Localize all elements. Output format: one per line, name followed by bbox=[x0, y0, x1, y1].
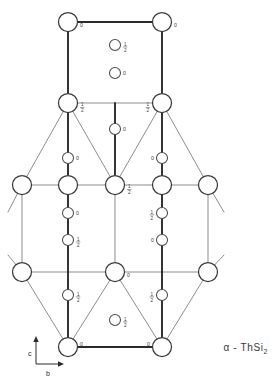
thorium-atom-circles: 00121212000 bbox=[13, 13, 218, 357]
atom-height-label: 0 bbox=[76, 210, 79, 216]
atom-height-fraction: 12 bbox=[76, 292, 80, 303]
fraction-numerator: 1 bbox=[77, 237, 80, 242]
thorium-atom: 0 bbox=[106, 263, 131, 282]
thorium-atom: 12 bbox=[59, 94, 85, 114]
light-bond-lines bbox=[8, 103, 224, 347]
thorium-atom bbox=[199, 263, 218, 282]
formula-subscript: 2 bbox=[264, 348, 269, 355]
fraction-numerator: 1 bbox=[81, 102, 84, 107]
atom-height-fraction: 12 bbox=[123, 317, 127, 328]
fraction-denominator: 2 bbox=[128, 190, 131, 195]
silicon-atom: 12 bbox=[63, 235, 81, 248]
silicon-atom: 0 bbox=[151, 153, 167, 164]
fraction-numerator: 1 bbox=[151, 292, 154, 297]
fraction-denominator: 2 bbox=[147, 108, 150, 113]
thorium-atom: 12 bbox=[106, 176, 132, 196]
bond-line-light bbox=[162, 103, 208, 185]
b-axis-label: b bbox=[46, 370, 50, 377]
bond-line-light bbox=[68, 272, 115, 347]
silicon-atom: 0 bbox=[110, 124, 127, 135]
thorium-atom bbox=[153, 176, 172, 195]
thorium-atom-circle bbox=[106, 176, 125, 195]
thorium-atom-circle bbox=[106, 263, 125, 282]
silicon-atom: 0 bbox=[63, 208, 80, 219]
bond-line-light bbox=[115, 103, 162, 185]
atom-height-label: 0 bbox=[80, 22, 83, 28]
fraction-numerator: 1 bbox=[147, 102, 150, 107]
thorium-atom: 0 bbox=[59, 13, 84, 32]
silicon-atom-circle bbox=[157, 235, 168, 246]
silicon-atom-circle bbox=[110, 124, 121, 135]
axis-indicator: c b bbox=[28, 336, 64, 377]
silicon-atom-circle bbox=[110, 40, 121, 51]
thorium-atom-circle bbox=[13, 176, 32, 195]
bond-line-light bbox=[22, 272, 68, 347]
c-axis-arrowhead bbox=[33, 336, 38, 342]
b-axis-arrowhead bbox=[58, 361, 64, 366]
fraction-denominator: 2 bbox=[81, 108, 84, 113]
fraction-numerator: 1 bbox=[151, 210, 154, 215]
fraction-denominator: 2 bbox=[77, 298, 80, 303]
atom-height-fraction: 12 bbox=[80, 102, 84, 113]
crystal-structure-diagram: 00121212000 120000012120121212 c b bbox=[0, 0, 280, 383]
c-axis-label: c bbox=[28, 350, 32, 357]
fraction-numerator: 1 bbox=[124, 317, 127, 322]
fraction-numerator: 1 bbox=[77, 292, 80, 297]
atom-height-fraction: 12 bbox=[150, 292, 154, 303]
atom-height-label: 0 bbox=[123, 126, 126, 132]
fraction-denominator: 2 bbox=[124, 48, 127, 53]
silicon-atom-circle bbox=[110, 315, 121, 326]
crystal-structure-figure: 00121212000 120000012120121212 c b α - T… bbox=[0, 0, 280, 383]
atom-height-fraction: 12 bbox=[76, 237, 80, 248]
silicon-atom-circle bbox=[63, 208, 74, 219]
atom-height-label: 0 bbox=[76, 155, 79, 161]
atom-height-fraction: 12 bbox=[146, 102, 150, 113]
thorium-atom-circle bbox=[59, 13, 78, 32]
atom-height-fraction: 12 bbox=[127, 184, 131, 195]
fraction-denominator: 2 bbox=[124, 323, 127, 328]
silicon-atom: 0 bbox=[63, 153, 80, 164]
thorium-atom-circle bbox=[153, 13, 172, 32]
bond-line-light bbox=[162, 272, 208, 347]
formula-prefix: α - ThSi bbox=[223, 342, 263, 353]
silicon-atom: 0 bbox=[110, 68, 127, 79]
fraction-numerator: 1 bbox=[124, 42, 127, 47]
atom-height-label: 0 bbox=[174, 22, 177, 28]
thorium-atom-circle bbox=[199, 263, 218, 282]
atom-height-fraction: 12 bbox=[123, 42, 127, 53]
atom-height-label: 0 bbox=[127, 272, 130, 278]
atom-height-label: 0 bbox=[151, 237, 154, 243]
atom-height-label: 0 bbox=[151, 155, 154, 161]
fraction-numerator: 1 bbox=[128, 184, 131, 189]
atom-height-fraction: 12 bbox=[150, 210, 154, 221]
thorium-atom-circle bbox=[59, 176, 78, 195]
fraction-denominator: 2 bbox=[151, 298, 154, 303]
thorium-atom-circle bbox=[13, 263, 32, 282]
fraction-denominator: 2 bbox=[151, 216, 154, 221]
fraction-denominator: 2 bbox=[77, 243, 80, 248]
thorium-atom-circle bbox=[153, 176, 172, 195]
thorium-atom bbox=[13, 176, 32, 195]
thorium-atom bbox=[59, 176, 78, 195]
bond-line-light bbox=[68, 103, 115, 185]
silicon-atom: 12 bbox=[63, 290, 81, 303]
silicon-atom: 12 bbox=[150, 290, 168, 303]
thorium-atom-circle bbox=[199, 176, 218, 195]
silicon-atom: 12 bbox=[110, 40, 128, 53]
thorium-atom-circle bbox=[59, 338, 78, 357]
atom-height-label: 0 bbox=[123, 70, 126, 76]
thorium-atom: 12 bbox=[146, 94, 172, 114]
silicon-atom-circle bbox=[63, 153, 74, 164]
silicon-atom-circle bbox=[63, 235, 74, 246]
silicon-atom-circle bbox=[157, 290, 168, 301]
silicon-atom: 12 bbox=[110, 315, 128, 328]
thorium-atom-circle bbox=[59, 94, 78, 113]
silicon-atom: 12 bbox=[150, 208, 168, 221]
thorium-atom bbox=[13, 263, 32, 282]
silicon-atom: 0 bbox=[151, 235, 167, 246]
silicon-atom-circle bbox=[63, 290, 74, 301]
thorium-atom-circle bbox=[153, 94, 172, 113]
silicon-atom-circle bbox=[157, 153, 168, 164]
thorium-atom: 0 bbox=[153, 13, 178, 32]
silicon-atom-circle bbox=[110, 68, 121, 79]
